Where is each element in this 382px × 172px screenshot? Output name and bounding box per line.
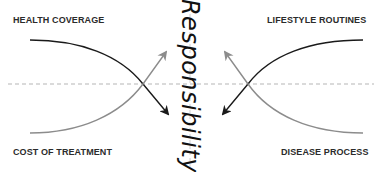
center-label-responsibility: Responsibility [176, 0, 204, 172]
responsibility-diagram: HEALTH COVERAGE LIFESTYLE ROUTINES COST … [0, 0, 382, 172]
label-lifestyle-routines: LIFESTYLE ROUTINES [267, 15, 366, 25]
arrow-lifestyle-routines-down [223, 40, 363, 114]
arrow-disease-process-up [225, 52, 363, 133]
label-disease-process: DISEASE PROCESS [281, 147, 369, 157]
label-health-coverage: HEALTH COVERAGE [13, 15, 104, 25]
arrow-cost-of-treatment-up [30, 52, 166, 133]
label-cost-of-treatment: COST OF TREATMENT [13, 147, 112, 157]
